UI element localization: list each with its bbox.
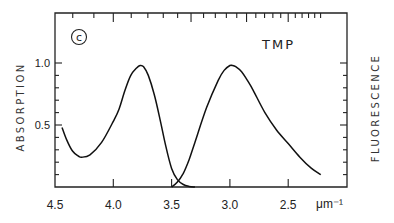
spectrum-chart: 4.54.03.53.02.5 0.51.0 c TMP ABSORPTION … <box>0 0 394 223</box>
x-tick-label: 2.5 <box>280 198 297 212</box>
y-tick-label: 0.5 <box>35 119 50 131</box>
x-tick-label: 4.5 <box>47 198 64 212</box>
compound-annotation: TMP <box>261 37 295 52</box>
panel-label-letter: c <box>76 31 82 44</box>
right-axis-ticks <box>340 63 347 175</box>
fluorescence-curve <box>172 65 321 187</box>
x-axis-unit: μm⁻¹ <box>316 197 343 211</box>
x-axis-tick-labels: 4.54.03.53.02.5 <box>47 198 297 212</box>
x-axis-ticks <box>113 179 288 187</box>
absorption-curve <box>62 65 195 187</box>
top-axis-wavelength-ticks <box>73 13 321 22</box>
y-axis-tick-labels: 0.51.0 <box>35 57 50 131</box>
panel-label: c <box>72 30 87 45</box>
left-axis-ticks <box>55 63 62 175</box>
right-axis-title: FLUORESCENCE <box>370 54 381 163</box>
x-tick-label: 3.5 <box>163 198 180 212</box>
y-tick-label: 1.0 <box>35 57 50 69</box>
left-axis-title: ABSORPTION <box>15 62 26 151</box>
x-tick-label: 4.0 <box>105 198 122 212</box>
x-tick-label: 3.0 <box>222 198 239 212</box>
